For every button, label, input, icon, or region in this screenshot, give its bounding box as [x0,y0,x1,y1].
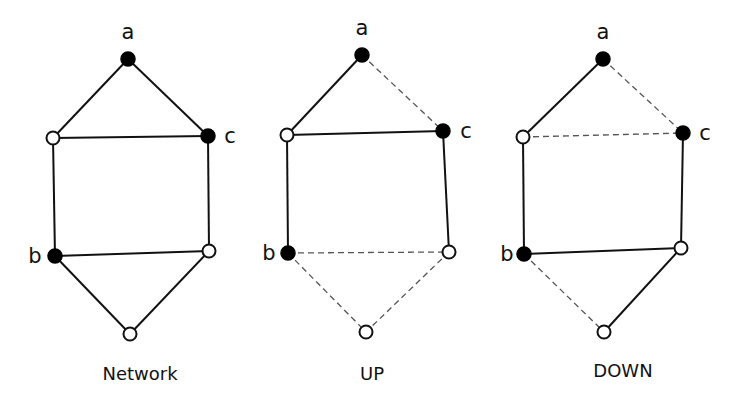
graph-up: acb UP [262,16,471,384]
node-label-a: a [597,20,610,44]
edge-layer [523,59,683,332]
edge-a-c-dashed [362,55,443,131]
node-a-filled [355,48,369,62]
edge-a-c-solid [128,59,208,136]
edge-b-bt-solid [55,256,130,334]
node-label-b: b [28,244,41,268]
node-label-c: c [699,121,711,145]
edge-lt-b-solid [53,138,55,256]
node-bt-open [598,326,611,339]
edge-a-c-dashed [603,59,683,133]
edge-rb-bt-dashed [366,252,449,332]
caption-network: Network [102,363,178,384]
edge-lt-b-solid [523,137,524,254]
node-rb-open [203,245,216,258]
node-layer [281,48,456,339]
edge-a-lt-solid [523,59,603,137]
node-bt-open [124,328,137,341]
edge-a-lt-solid [53,59,128,138]
node-b-filled [48,249,62,263]
caption-up: UP [360,363,384,384]
node-layer [47,52,216,341]
edge-lt-c-solid [287,131,443,135]
edge-b-rb-solid [524,248,681,254]
edge-c-rb-solid [443,131,449,252]
node-b-filled [281,246,295,260]
node-c-filled [436,124,450,138]
node-rb-open [443,246,456,259]
node-lt-open [47,132,60,145]
edge-c-rb-solid [208,136,209,251]
node-a-filled [121,52,135,66]
edge-c-rb-solid [681,133,683,248]
graph-diagram-canvas: acb Network acb UP acb DOWN [0,0,735,405]
edge-layer [53,59,209,334]
node-label-c: c [460,119,472,143]
node-lt-open [517,131,530,144]
node-label-a: a [122,20,135,44]
edge-a-lt-solid [287,55,362,135]
node-layer [517,52,691,339]
node-label-a: a [356,16,369,40]
node-b-filled [517,247,531,261]
node-rb-open [675,242,688,255]
edge-b-rb-dashed [288,252,449,253]
node-a-filled [596,52,610,66]
edge-lt-c-dashed [523,133,683,137]
node-c-filled [201,129,215,143]
edge-b-bt-dashed [288,253,366,332]
edge-rb-bt-solid [130,251,209,334]
edge-lt-c-solid [53,136,208,138]
edge-lt-b-solid [287,135,288,253]
caption-down: DOWN [593,360,652,381]
node-label-b: b [500,242,513,266]
edge-b-bt-dashed [524,254,604,332]
node-c-filled [676,126,690,140]
node-label-b: b [262,241,275,265]
edge-rb-bt-solid [604,248,681,332]
edge-b-rb-solid [55,251,209,256]
node-bt-open [360,326,373,339]
node-label-c: c [224,124,236,148]
node-lt-open [281,129,294,142]
edge-layer [287,55,449,332]
graph-down: acb DOWN [500,20,710,381]
graph-network: acb Network [28,20,235,384]
